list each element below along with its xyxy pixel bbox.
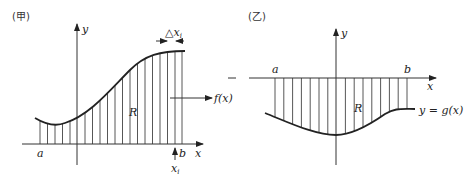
region-label: R xyxy=(353,102,362,115)
x-axis-label: x xyxy=(195,147,202,160)
a-label: a xyxy=(272,63,279,76)
svg-text:f(x): f(x) xyxy=(213,92,233,105)
panel-caption: (乙) xyxy=(248,11,266,22)
region-label: R xyxy=(128,106,137,119)
riemann-sum-diagram: (甲) y x xyxy=(0,0,473,181)
a-label: a xyxy=(37,147,44,160)
y-axis-label: y xyxy=(340,27,348,40)
panel-yi: (乙) y x a b R y = g(x) xyxy=(248,11,463,165)
panel-jia: (甲) y x xyxy=(12,11,233,176)
panel-caption: (甲) xyxy=(12,11,30,22)
curve-f xyxy=(35,51,185,125)
svg-text:△xi: △xi xyxy=(165,26,182,40)
svg-text:xi: xi xyxy=(171,162,179,176)
function-label: y = g(x) xyxy=(418,104,463,117)
rectangle-strips xyxy=(40,40,182,144)
b-label: b xyxy=(179,147,186,160)
b-label: b xyxy=(404,63,411,76)
rectangle-strips xyxy=(275,78,407,150)
x-axis-label: x xyxy=(427,80,434,93)
delta-x-annotation: △xi xyxy=(156,26,184,41)
f-label-annotation: f(x) xyxy=(170,92,233,105)
curve-g xyxy=(265,109,415,135)
y-axis-label: y xyxy=(81,23,89,36)
